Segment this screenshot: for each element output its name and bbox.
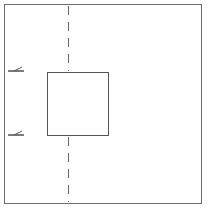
- upper-arrow-icon: [8, 67, 24, 71]
- diagram-canvas: [0, 0, 211, 212]
- outer-frame: [5, 5, 202, 204]
- inner-square: [48, 73, 109, 136]
- lower-arrow-icon: [8, 131, 24, 135]
- diagram-svg: [0, 0, 211, 212]
